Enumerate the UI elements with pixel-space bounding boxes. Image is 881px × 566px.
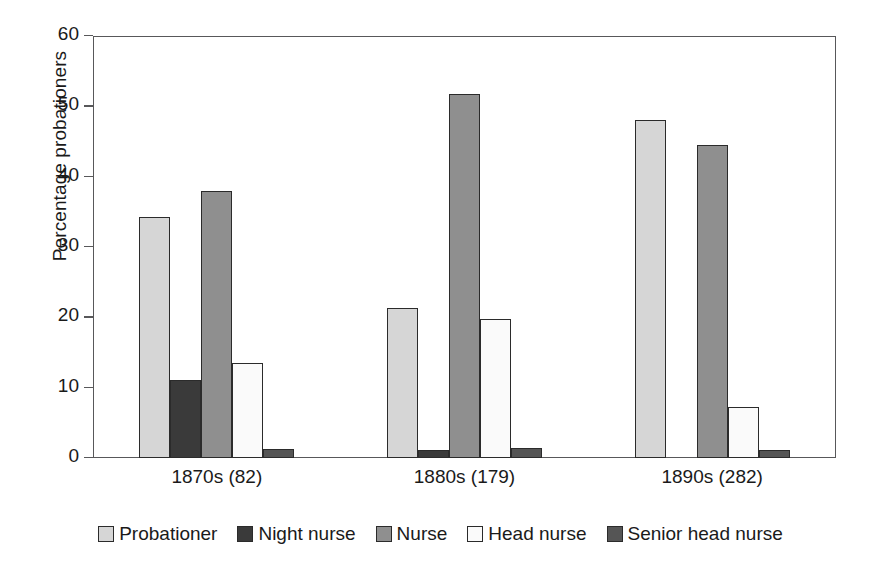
y-axis-tick-label: 20 <box>58 304 79 326</box>
x-axis-group-label: 1890s (282) <box>661 466 762 488</box>
y-axis-tick-label: 30 <box>58 234 79 256</box>
bar <box>511 448 542 458</box>
legend-item[interactable]: Night nurse <box>237 524 355 543</box>
y-axis-tick-mark <box>84 387 93 388</box>
bar <box>418 450 449 458</box>
y-axis-tick-label: 0 <box>68 445 79 467</box>
legend-item[interactable]: Nurse <box>376 524 448 543</box>
y-axis-tick-mark <box>84 176 93 177</box>
y-axis-tick-label: 40 <box>58 164 79 186</box>
y-axis-tick-label: 50 <box>58 93 79 115</box>
bar <box>697 145 728 458</box>
legend-swatch-icon <box>98 526 114 542</box>
bar <box>170 380 201 458</box>
bar <box>387 308 418 458</box>
bar <box>759 450 790 458</box>
x-axis-group-label: 1880s (179) <box>414 466 515 488</box>
bars-layer <box>93 36 836 458</box>
bar-chart: Percentage probationers 0102030405060 18… <box>0 0 881 566</box>
y-axis-tick-mark <box>84 246 93 247</box>
legend-item-label: Senior head nurse <box>628 524 783 543</box>
legend-item-label: Probationer <box>119 524 217 543</box>
y-axis-tick-mark <box>84 316 93 317</box>
y-axis-tick-mark <box>84 105 93 106</box>
bar <box>201 191 232 458</box>
legend-item[interactable]: Head nurse <box>467 524 586 543</box>
legend-swatch-icon <box>467 526 483 542</box>
legend-item[interactable]: Senior head nurse <box>607 524 783 543</box>
bar <box>449 94 480 458</box>
bar <box>635 120 666 458</box>
legend-item-label: Head nurse <box>488 524 586 543</box>
y-axis-tick-mark <box>84 457 93 458</box>
legend-swatch-icon <box>376 526 392 542</box>
bar <box>139 217 170 458</box>
bar <box>480 319 511 458</box>
legend-swatch-icon <box>607 526 623 542</box>
y-axis-tick-mark <box>84 35 93 36</box>
y-axis-tick-label: 10 <box>58 375 79 397</box>
bar <box>232 363 263 458</box>
legend-item[interactable]: Probationer <box>98 524 217 543</box>
chart-legend: ProbationerNight nurseNurseHead nurseSen… <box>0 524 881 543</box>
y-axis-tick-label: 60 <box>58 23 79 45</box>
bar <box>728 407 759 458</box>
legend-item-label: Night nurse <box>258 524 355 543</box>
bar <box>263 449 294 458</box>
legend-item-label: Nurse <box>397 524 448 543</box>
legend-swatch-icon <box>237 526 253 542</box>
x-axis-group-label: 1870s (82) <box>171 466 262 488</box>
